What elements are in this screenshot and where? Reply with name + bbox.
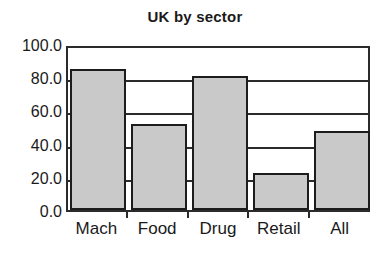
y-axis-tick-label: 0.0	[0, 204, 62, 220]
y-axis-tick-label: 20.0	[0, 171, 62, 187]
bar	[70, 69, 126, 210]
x-axis-category-label: All	[309, 218, 370, 240]
x-axis-category-label: Mach	[66, 218, 127, 240]
bar	[253, 173, 309, 210]
bars-layer	[68, 48, 368, 210]
x-axis-category-label: Food	[127, 218, 188, 240]
y-axis-tick-label: 60.0	[0, 104, 62, 120]
x-axis-labels: MachFoodDrugRetailAll	[66, 218, 370, 248]
y-axis-tick-label: 40.0	[0, 138, 62, 154]
y-axis-tick-label: 100.0	[0, 38, 62, 54]
plot-area	[66, 46, 370, 212]
bar	[192, 76, 248, 210]
x-axis-category-label: Retail	[248, 218, 309, 240]
x-axis-category-label: Drug	[188, 218, 249, 240]
y-axis-labels: 100.080.060.040.020.00.0	[0, 0, 62, 257]
y-axis-tick-label: 80.0	[0, 71, 62, 87]
bar	[131, 124, 187, 210]
bar	[314, 131, 370, 210]
bar-chart: UK by sector 100.080.060.040.020.00.0 Ma…	[0, 0, 390, 257]
